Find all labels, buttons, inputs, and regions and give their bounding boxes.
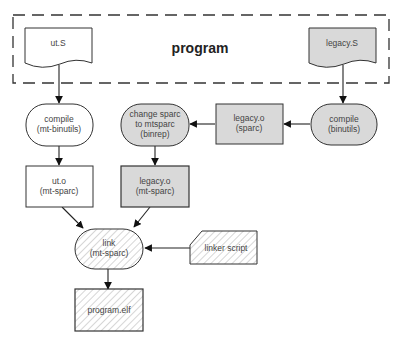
node-ut-o: ut.o (mt-sparc)	[26, 166, 93, 207]
node-legacy-s: legacy.S	[309, 28, 376, 67]
node-program-elf: program.elf	[75, 289, 143, 331]
node-change-sparc-line3: (binrep)	[140, 129, 169, 139]
node-link: link (mt-sparc)	[75, 229, 143, 269]
node-legacy-s-label: legacy.S	[326, 38, 358, 48]
node-compile-mt-binutils: compile (mt-binutils)	[26, 104, 93, 146]
node-legacy-o-sparc: legacy.o (sparc)	[216, 104, 283, 144]
node-ut-o-line2: (mt-sparc)	[40, 186, 79, 196]
node-change-sparc-line1: change sparc	[129, 109, 181, 119]
node-link-line2: (mt-sparc)	[90, 248, 129, 258]
node-compile-binutils-line1: compile	[329, 114, 359, 124]
node-legacy-o-mt: legacy.o (mt-sparc)	[121, 166, 189, 207]
node-compile-binutils: compile (binutils)	[311, 104, 377, 145]
node-link-line1: link	[103, 238, 117, 248]
node-change-sparc: change sparc to mtsparc (binrep)	[121, 104, 189, 146]
edge-legacyomt-link	[134, 207, 150, 227]
node-legacy-o-mt-line2: (mt-sparc)	[136, 186, 175, 196]
node-legacy-o-sparc-line2: (sparc)	[236, 123, 263, 133]
node-linker-script: linker script	[190, 231, 257, 264]
build-flow-diagram: program ut.S legacy.S compile (mt-binuti…	[0, 0, 407, 345]
node-ut-o-line1: ut.o	[52, 176, 66, 186]
node-compile-binutils-line2: (binutils)	[328, 124, 360, 134]
node-ut-s-label: ut.S	[50, 38, 65, 48]
node-program-elf-label: program.elf	[88, 305, 132, 315]
edge-uto-link	[62, 207, 83, 228]
node-ut-s: ut.S	[25, 28, 92, 67]
node-compile-mt-line2: (mt-binutils)	[37, 124, 82, 134]
node-linker-script-label: linker script	[205, 243, 249, 253]
node-legacy-o-sparc-line1: legacy.o	[233, 113, 264, 123]
program-group-label: program	[172, 40, 229, 56]
node-compile-mt-line1: compile	[44, 114, 74, 124]
node-legacy-o-mt-line1: legacy.o	[139, 176, 170, 186]
node-change-sparc-line2: to mtsparc	[135, 119, 175, 129]
